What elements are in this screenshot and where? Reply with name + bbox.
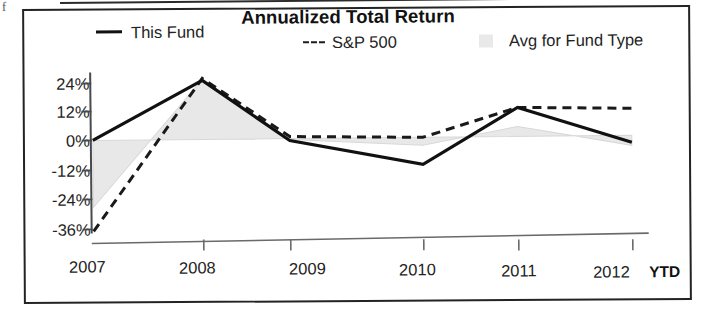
chart-figure: f Annualized Total Return This Fund S&P … — [0, 0, 701, 311]
y-axis-line — [90, 72, 92, 233]
chart-canvas — [0, 0, 701, 311]
x-axis-line — [92, 233, 649, 243]
plot-area: 24% 12% 0% -12% -24% -36% 2007 2008 2009… — [0, 0, 701, 311]
